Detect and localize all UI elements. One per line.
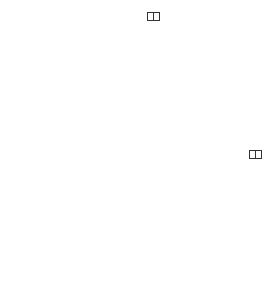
unknown-glyph-box-icon [153, 12, 160, 21]
y-axis-label [147, 12, 160, 23]
coordinate-plane [0, 0, 276, 284]
x-axis-label [249, 150, 262, 161]
unknown-glyph-box-icon [255, 150, 262, 159]
